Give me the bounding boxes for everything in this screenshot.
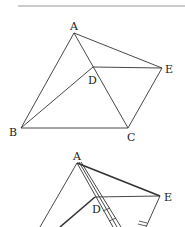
figure-2-labels: A D E xyxy=(72,150,172,216)
segment-de xyxy=(93,67,162,68)
label-d-2: D xyxy=(92,203,101,216)
label-b: B xyxy=(9,126,17,139)
segment-ac xyxy=(74,33,128,128)
segment-bd xyxy=(21,67,93,128)
label-d: D xyxy=(88,74,97,87)
segment-ec-2 xyxy=(146,196,160,227)
label-a: A xyxy=(69,20,79,33)
tick-mark-3b xyxy=(138,224,146,226)
label-c: C xyxy=(127,131,135,144)
segment-ac-2a xyxy=(77,163,113,227)
segment-ab xyxy=(21,33,74,128)
segment-bd-2 xyxy=(60,197,95,227)
segment-ce xyxy=(128,68,162,128)
figure-2 xyxy=(40,162,160,227)
label-a-2: A xyxy=(72,150,82,163)
geometry-diagram: A B C D E A D E xyxy=(0,0,185,227)
tick-mark-3a xyxy=(139,221,147,223)
figure-1-labels: A B C D E xyxy=(9,20,173,144)
label-e-2: E xyxy=(164,191,172,204)
segment-ae xyxy=(74,33,162,68)
label-e: E xyxy=(165,63,173,76)
segment-de-2 xyxy=(95,196,160,197)
